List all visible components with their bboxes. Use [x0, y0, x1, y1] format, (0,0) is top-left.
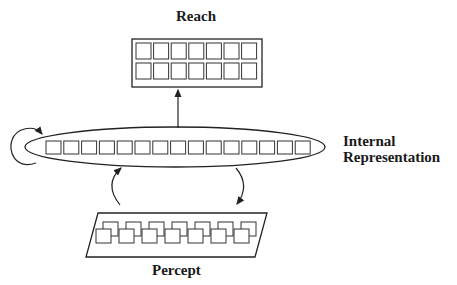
reach-cell [171, 43, 186, 59]
percept-cell-front [119, 229, 134, 243]
percept-box [86, 213, 267, 257]
reach-cell [206, 63, 221, 79]
reach-cell [224, 43, 239, 59]
internal-cell [277, 141, 292, 154]
reach-cell [136, 63, 151, 79]
reach-cell [136, 43, 151, 59]
percept-cell-front [188, 229, 203, 243]
internal-cell [224, 141, 239, 154]
internal-cell [295, 141, 310, 154]
arrow-percept-to-internal [112, 168, 121, 205]
reach-cell [171, 63, 186, 79]
percept-cell-front [142, 229, 157, 243]
internal-cell [260, 141, 275, 154]
internal-cell [82, 141, 97, 154]
percept-cell-front [211, 229, 226, 243]
reach-box [132, 39, 262, 87]
internal-representation-ellipse [25, 127, 325, 167]
arrow-internal-to-percept [236, 168, 244, 204]
reach-cell [189, 43, 204, 59]
internal-representation-label-line1: Internal [343, 133, 396, 149]
percept-cell-front [234, 229, 249, 243]
internal-cell [206, 141, 221, 154]
internal-cell [46, 141, 61, 154]
reach-cell [154, 43, 169, 59]
reach-cell [206, 43, 221, 59]
internal-cell [64, 141, 79, 154]
internal-cell [242, 141, 257, 154]
percept-cell-front [96, 229, 111, 243]
internal-cell [153, 141, 168, 154]
percept-cell-front [165, 229, 180, 243]
reach-cell [189, 63, 204, 79]
reach-cell [224, 63, 239, 79]
internal-cell [135, 141, 150, 154]
self-loop-arrow [11, 128, 42, 164]
internal-cell [117, 141, 132, 154]
internal-representation-label-line2: Representation [343, 149, 440, 165]
reach-label: Reach [176, 8, 216, 24]
internal-cell [188, 141, 203, 154]
reach-cell [242, 63, 257, 79]
percept-label: Percept [152, 262, 201, 278]
internal-cell [99, 141, 114, 154]
reach-cell [154, 63, 169, 79]
internal-cell [171, 141, 186, 154]
reach-cell [242, 43, 257, 59]
